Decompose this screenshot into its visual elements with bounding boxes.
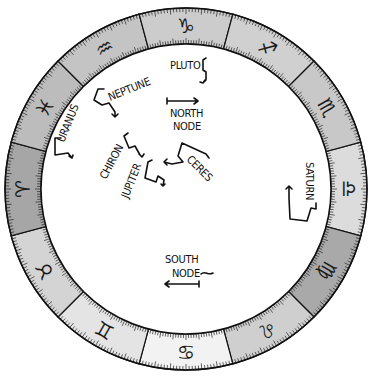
cancer-glyph-icon: ♋ bbox=[177, 340, 195, 364]
pluto-label: PLUTO bbox=[170, 59, 201, 72]
inner-ring-border bbox=[41, 44, 331, 334]
libra-glyph-icon: ♎ bbox=[337, 180, 361, 198]
north-node-label-line2: NODE bbox=[173, 120, 201, 133]
south-node-label-line1: SOUTH bbox=[165, 253, 198, 266]
zodiac-wheel: ♎♍♌♋♊♉♈♓♒♑♐♏ PLUTO NEPTUNE URANUS NORTH … bbox=[0, 0, 371, 378]
south-node-label-line2: NODE bbox=[172, 267, 200, 280]
saturn-label: SATURN bbox=[303, 162, 316, 200]
capricorn-glyph-icon: ♑ bbox=[177, 14, 195, 38]
aries-glyph-icon: ♈ bbox=[11, 180, 35, 198]
north-node-label-line1: NORTH bbox=[170, 107, 203, 120]
